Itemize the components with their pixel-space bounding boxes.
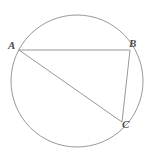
- vertex-label-c: C: [122, 119, 129, 130]
- vertex-label-b: B: [129, 38, 136, 49]
- chord-ac: [19, 50, 122, 122]
- chord-bc: [122, 50, 130, 122]
- vertex-label-a: A: [8, 40, 15, 51]
- geometry-figure: A B C: [0, 0, 151, 161]
- geometry-canvas: [0, 0, 151, 161]
